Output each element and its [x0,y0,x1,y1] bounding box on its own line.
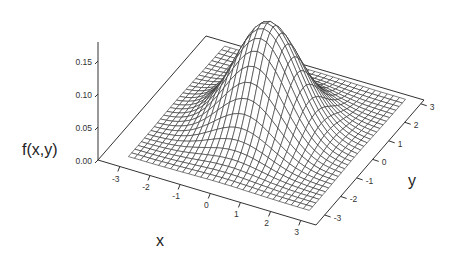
surface-mesh [128,21,405,210]
y-tick-label: -1 [366,176,374,186]
x-tick-label: -1 [172,191,180,201]
y-tick-label: -2 [350,194,358,204]
x-axis-title: x [156,232,164,249]
x-tick-label: 2 [264,218,269,228]
x-tick-label: -3 [112,174,120,184]
y-tick-label: 0 [382,157,387,167]
y-tick-label: 2 [414,120,419,130]
x-tick-label: 3 [294,227,299,237]
x-tick-label: 0 [204,200,209,210]
z-axis-title: f(x,y) [22,141,58,158]
z-tick-label: 0.15 [75,57,92,67]
x-tick-label: -2 [142,182,150,192]
surface-plot: 0.000.050.100.15 -3-2-10123 -3-2-10123 f… [0,0,457,261]
y-axis-title: y [408,172,416,189]
z-tick-label: 0.05 [75,123,92,133]
y-tick-label: 1 [398,139,403,149]
z-tick-label: 0.10 [75,90,92,100]
y-tick-label: 3 [430,102,435,112]
z-axis: 0.000.050.100.15 [75,42,98,166]
z-tick-label: 0.00 [75,156,92,166]
y-tick-label: -3 [334,213,342,223]
x-tick-label: 1 [234,209,239,219]
